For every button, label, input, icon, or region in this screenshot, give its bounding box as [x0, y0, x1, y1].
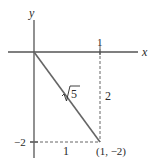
y-axis-label: y	[28, 6, 35, 20]
x-axis-label: x	[141, 45, 148, 59]
point-label: (1, −2)	[96, 145, 126, 158]
horizontal-leg-label: 1	[63, 144, 69, 158]
vertical-leg-label: 2	[105, 89, 111, 103]
coordinate-diagram: y x 1 −2 5 2 1 (1, −2)	[0, 0, 154, 163]
radicand: 5	[71, 87, 77, 101]
y-tick-label: −2	[14, 136, 26, 148]
x-tick-label: 1	[97, 36, 103, 48]
